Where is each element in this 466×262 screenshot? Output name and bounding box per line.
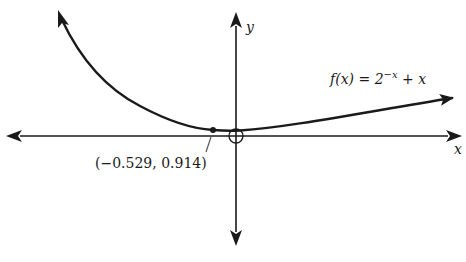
minimum-point-dot (210, 127, 216, 133)
y-axis-label: y (245, 19, 255, 35)
function-label: f(x) = 2−x + x (329, 69, 426, 87)
function-rhs: + x (398, 71, 427, 87)
x-axis-label: x (454, 141, 462, 157)
y-axis-up-arrow-icon (230, 12, 242, 28)
x-axis-left-arrow-icon (6, 130, 22, 142)
y-axis-down-arrow-icon (230, 230, 242, 246)
minimum-point-label: (−0.529, 0.914) (95, 155, 207, 171)
function-lhs: f(x) = 2 (329, 71, 384, 87)
function-exponent: −x (384, 69, 398, 80)
annotation-leader-line (206, 137, 211, 152)
function-graph: y x (−0.529, 0.914) f(x) = 2−x + x (0, 0, 466, 262)
